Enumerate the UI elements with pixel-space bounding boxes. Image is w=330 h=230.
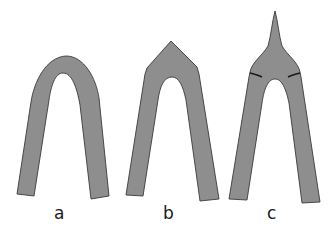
- rounded-arch-shape: [17, 56, 109, 199]
- panel-label-a: a: [54, 203, 64, 223]
- panel-b: b: [126, 41, 219, 223]
- panel-label-c: c: [267, 203, 276, 223]
- pointed-arch-shape: [126, 41, 219, 201]
- panel-label-b: b: [163, 203, 174, 223]
- panel-c: c: [229, 11, 320, 223]
- figure-canvas: a b c: [0, 0, 330, 230]
- spike-arch-shape: [229, 11, 320, 203]
- panel-a: a: [17, 56, 109, 223]
